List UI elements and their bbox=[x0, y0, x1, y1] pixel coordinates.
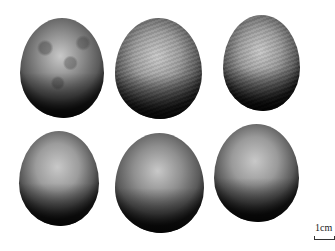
scale-bar: 1cm bbox=[311, 222, 335, 242]
seed-1 bbox=[20, 18, 104, 118]
seed-shadow bbox=[115, 133, 204, 233]
seed-shadow bbox=[20, 18, 104, 118]
seed-shadow bbox=[223, 15, 300, 111]
seed-5 bbox=[115, 133, 204, 233]
seed-2 bbox=[115, 18, 202, 119]
seed-4 bbox=[19, 131, 99, 226]
seed-6 bbox=[214, 124, 299, 222]
seed-shadow bbox=[115, 18, 202, 119]
seed-shadow bbox=[214, 124, 299, 222]
seed-shadow bbox=[19, 131, 99, 226]
scale-label: 1cm bbox=[315, 222, 332, 234]
scale-bar-line bbox=[314, 236, 335, 240]
seed-3 bbox=[223, 15, 300, 111]
